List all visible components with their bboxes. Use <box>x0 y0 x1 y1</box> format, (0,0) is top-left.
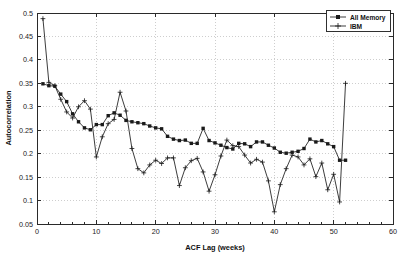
data-point-marker <box>313 174 318 179</box>
data-point-marker <box>100 134 105 139</box>
data-point-marker <box>314 140 317 143</box>
grid-lines <box>37 13 393 224</box>
data-point-marker <box>124 109 129 114</box>
data-point-marker <box>254 157 259 162</box>
data-point-marker <box>272 209 277 214</box>
x-tick-label: 60 <box>389 227 397 236</box>
data-point-marker <box>338 159 341 162</box>
series-all-memory <box>41 82 347 162</box>
data-series <box>41 16 348 214</box>
data-point-marker <box>331 172 336 177</box>
y-tick-label: 0.25 <box>19 126 33 135</box>
data-point-marker <box>273 146 276 149</box>
data-point-marker <box>118 114 121 117</box>
data-point-marker <box>136 121 139 124</box>
data-point-marker <box>195 156 200 161</box>
data-point-marker <box>278 182 283 187</box>
legend-label-ibm: IBM <box>350 23 363 30</box>
y-tick-label: 0.05 <box>19 220 33 229</box>
data-point-marker <box>320 139 323 142</box>
data-point-marker <box>95 123 98 126</box>
chart-legend[interactable]: All Memory IBM <box>326 10 390 31</box>
data-point-marker <box>142 122 145 125</box>
data-point-marker <box>284 166 289 171</box>
data-point-marker <box>344 159 347 162</box>
data-point-marker <box>83 126 86 129</box>
x-tick-label: 30 <box>211 227 219 236</box>
data-point-marker <box>41 16 46 21</box>
data-point-marker <box>249 145 252 148</box>
data-point-marker <box>261 140 264 143</box>
data-point-marker <box>302 147 305 150</box>
data-point-marker <box>94 155 99 160</box>
data-point-marker <box>77 120 80 123</box>
y-tick-label: 0.3 <box>23 102 33 111</box>
data-point-marker <box>201 170 206 175</box>
data-point-marker <box>343 81 348 86</box>
x-tick-label: 50 <box>330 227 338 236</box>
y-tick-label: 0.45 <box>19 32 33 41</box>
data-point-marker <box>166 135 169 138</box>
data-point-marker <box>319 161 324 166</box>
data-point-marker <box>59 92 62 95</box>
data-point-marker <box>118 90 123 95</box>
x-axis-title: ACF Lag (weeks) <box>185 243 245 252</box>
data-point-marker <box>285 152 288 155</box>
y-tick-label: 0.35 <box>19 79 33 88</box>
data-point-marker <box>130 146 135 151</box>
data-point-marker <box>65 100 68 103</box>
data-point-marker <box>148 124 151 127</box>
data-point-marker <box>225 146 228 149</box>
data-point-marker <box>178 139 181 142</box>
data-point-marker <box>325 187 330 192</box>
y-tick-label: 0.5 <box>23 9 33 18</box>
legend-label-all-memory: All Memory <box>350 14 386 22</box>
data-point-marker <box>266 178 271 183</box>
acf-chart-figure: 0.050.10.150.20.250.30.350.40.450.501020… <box>0 0 413 262</box>
x-tick-label: 0 <box>35 227 39 236</box>
data-point-marker <box>207 189 212 194</box>
data-point-marker <box>219 154 224 159</box>
y-axis-title: Autocorrelation <box>4 90 13 146</box>
x-tick-label: 40 <box>270 227 278 236</box>
data-point-marker <box>296 150 299 153</box>
data-point-marker <box>184 138 187 141</box>
data-point-marker <box>89 128 92 131</box>
data-point-marker <box>326 142 329 145</box>
data-point-marker <box>172 137 175 140</box>
data-point-marker <box>101 123 104 126</box>
series-line <box>43 19 346 212</box>
data-point-marker <box>177 183 182 188</box>
data-point-marker <box>154 126 157 129</box>
y-tick-label: 0.1 <box>23 196 33 205</box>
data-point-marker <box>255 140 258 143</box>
acf-plot-svg: 0.050.10.150.20.250.30.350.40.450.501020… <box>0 0 413 262</box>
data-point-marker <box>279 151 282 154</box>
x-tick-label: 10 <box>92 227 100 236</box>
data-point-marker <box>260 160 265 165</box>
y-tick-label: 0.2 <box>23 149 33 158</box>
y-tick-label: 0.4 <box>23 55 33 64</box>
legend-marker-filled-square <box>336 15 340 19</box>
series-line <box>43 84 346 160</box>
data-point-marker <box>308 137 311 140</box>
data-point-marker <box>201 127 204 130</box>
data-point-marker <box>160 127 163 130</box>
data-point-marker <box>107 114 110 117</box>
y-tick-label: 0.15 <box>19 173 33 182</box>
data-point-marker <box>207 139 210 142</box>
data-point-marker <box>219 144 222 147</box>
data-point-marker <box>213 172 218 177</box>
data-point-marker <box>213 141 216 144</box>
data-point-marker <box>243 142 246 145</box>
data-point-marker <box>130 120 133 123</box>
series-ibm <box>41 16 348 214</box>
data-point-marker <box>41 82 44 85</box>
data-point-marker <box>58 97 63 102</box>
data-point-marker <box>267 144 270 147</box>
data-point-marker <box>190 142 193 145</box>
data-point-marker <box>196 142 199 145</box>
data-point-marker <box>171 155 176 160</box>
data-point-marker <box>332 145 335 148</box>
x-tick-label: 20 <box>152 227 160 236</box>
